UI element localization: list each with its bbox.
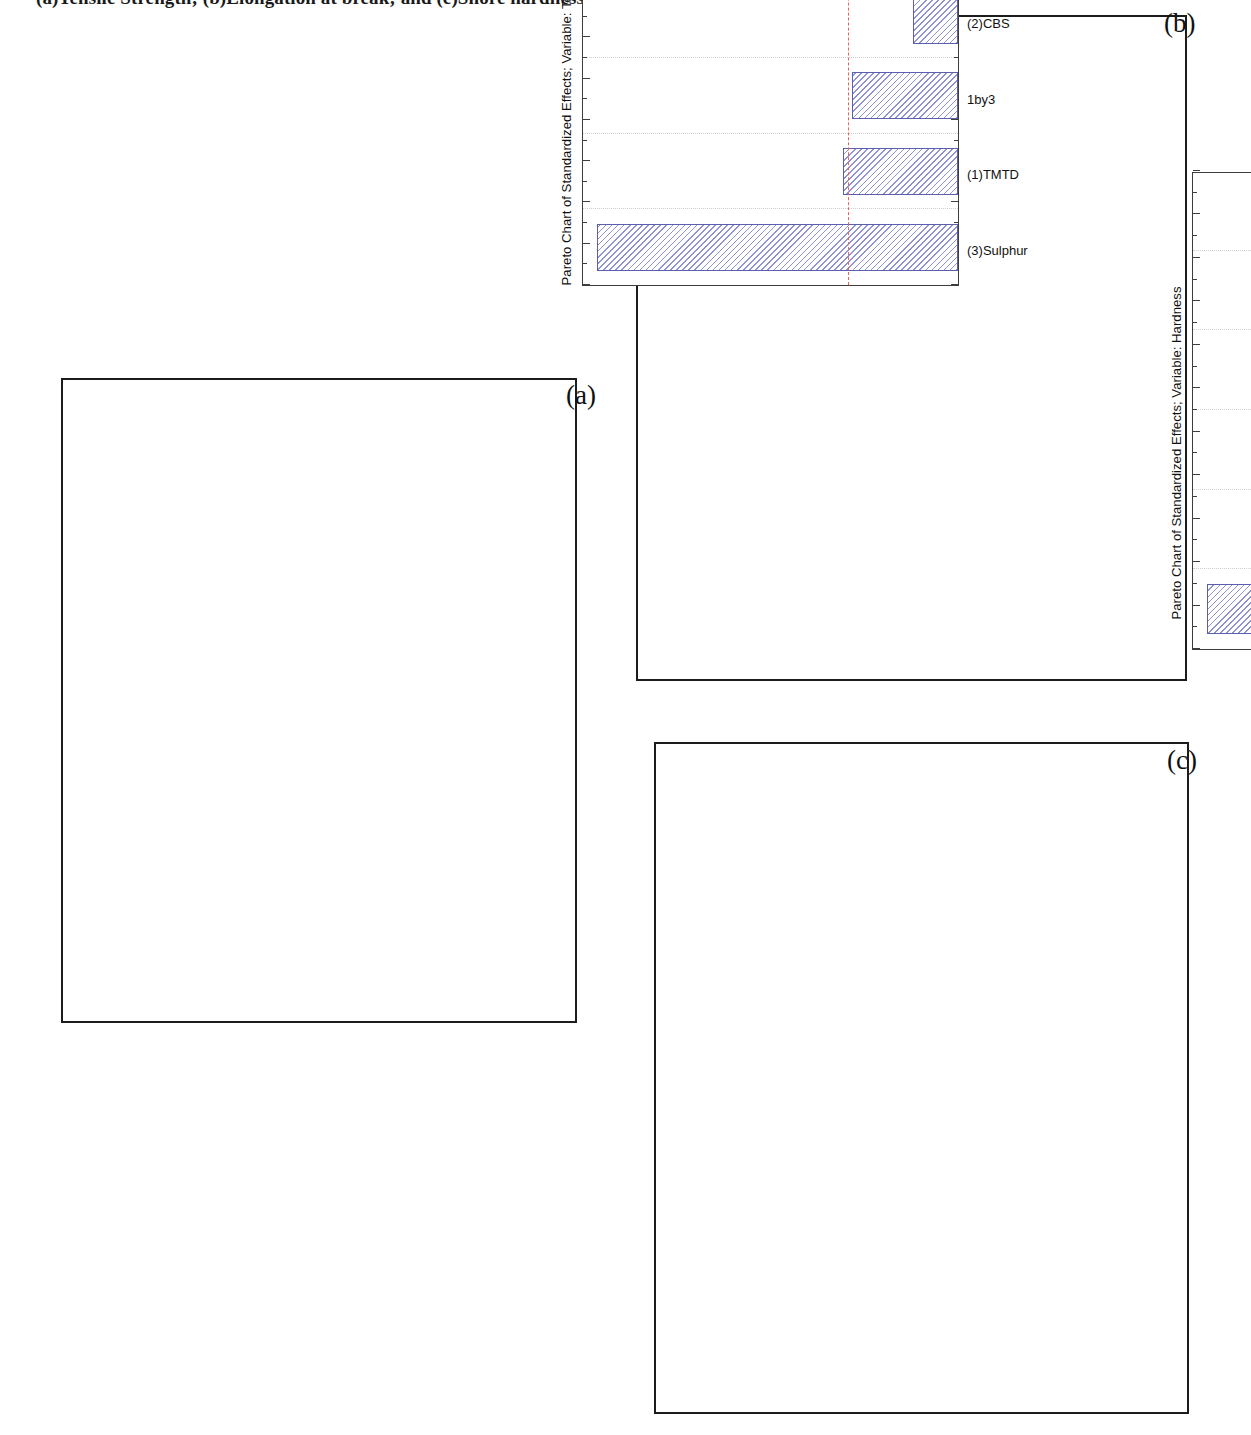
gridline bbox=[583, 56, 958, 58]
axis-tick bbox=[1193, 583, 1197, 584]
axis-tick bbox=[1193, 170, 1200, 171]
pareto-chart-b: Pareto Chart of Standardized Effects; Va… bbox=[1167, 0, 1251, 36]
bar-1by3 bbox=[852, 72, 958, 119]
axis-tick bbox=[1193, 626, 1197, 627]
axis-tick bbox=[583, 78, 590, 79]
axis-tick bbox=[583, 98, 587, 99]
chart-title-block: Pareto Chart of Standardized Effects; Va… bbox=[1163, 0, 1227, 36]
axis-tick bbox=[1193, 322, 1197, 323]
axis-tick bbox=[583, 16, 587, 17]
axis-tick bbox=[583, 181, 587, 182]
axis-tick bbox=[583, 284, 590, 285]
axis-tick bbox=[951, 284, 958, 285]
pareto-chart-c: Pareto Chart of Standardized Effects; Va… bbox=[1170, 144, 1251, 762]
axis-tick bbox=[1193, 474, 1200, 475]
axis-tick bbox=[1193, 344, 1200, 345]
axis-tick bbox=[1193, 409, 1197, 410]
axis-tick bbox=[1193, 300, 1200, 301]
plot-area bbox=[582, 0, 959, 286]
p-threshold-line bbox=[848, 0, 849, 285]
axis-tick bbox=[583, 263, 587, 264]
axis-tick bbox=[1193, 648, 1200, 649]
category-label: (1)TMTD bbox=[967, 168, 1019, 183]
axis-tick bbox=[1193, 235, 1197, 236]
chart-dv-label: DV: Elongation at break bbox=[1206, 0, 1227, 36]
chart-title: Pareto Chart of Standardized Effects; Va… bbox=[1166, 144, 1187, 762]
category-label: (3)Sulphur bbox=[967, 243, 1028, 258]
plot-area bbox=[1192, 172, 1251, 650]
axis-tick bbox=[583, 140, 587, 141]
axis-tick bbox=[1193, 192, 1197, 193]
axis-tick bbox=[954, 140, 958, 141]
bar-3sulphur bbox=[597, 224, 958, 271]
pareto-chart-a: Pareto Chart of Standardized Effects; Va… bbox=[560, 0, 1055, 396]
category-label: 1by3 bbox=[967, 92, 995, 107]
axis-tick bbox=[1193, 561, 1200, 562]
axis-tick bbox=[1193, 539, 1197, 540]
gridline bbox=[1193, 249, 1251, 251]
gridline bbox=[1193, 328, 1251, 330]
axis-tick bbox=[583, 36, 590, 37]
category-label: (2)CBS bbox=[967, 16, 1010, 31]
gridline bbox=[1193, 408, 1251, 410]
bar-2cbs bbox=[913, 0, 958, 44]
axis-tick bbox=[583, 222, 587, 223]
axis-tick bbox=[1193, 452, 1197, 453]
axis-tick bbox=[583, 160, 590, 161]
axis-tick bbox=[583, 119, 590, 120]
bar-1tmtd bbox=[843, 148, 958, 195]
axis-tick bbox=[951, 201, 958, 202]
axis-tick bbox=[954, 57, 958, 58]
gridline bbox=[1193, 488, 1251, 490]
chart-panel-a bbox=[61, 378, 577, 1023]
axis-tick bbox=[583, 201, 590, 202]
gridline bbox=[583, 132, 958, 134]
axis-tick bbox=[1193, 387, 1200, 388]
axis-tick bbox=[1193, 496, 1197, 497]
axis-tick bbox=[1193, 518, 1200, 519]
axis-tick bbox=[1193, 257, 1200, 258]
axis-tick bbox=[583, 243, 590, 244]
axis-tick bbox=[1193, 431, 1200, 432]
axis-tick bbox=[1193, 605, 1200, 606]
chart-subtitle: 2**(3-0) design; MS Residual=571,8935 bbox=[1184, 0, 1205, 36]
chart-panel-c bbox=[654, 742, 1189, 1414]
gridline bbox=[583, 207, 958, 209]
axis-tick bbox=[1193, 366, 1197, 367]
chart-title: Pareto Chart of Standardized Effects; Va… bbox=[556, 0, 577, 396]
axis-tick bbox=[1193, 213, 1200, 214]
chart-title: Pareto Chart of Standardized Effects; Va… bbox=[1163, 0, 1184, 36]
axis-tick bbox=[583, 57, 587, 58]
axis-tick bbox=[1193, 279, 1197, 280]
bar-3sulphur bbox=[1207, 584, 1251, 633]
gridline bbox=[1193, 567, 1251, 569]
